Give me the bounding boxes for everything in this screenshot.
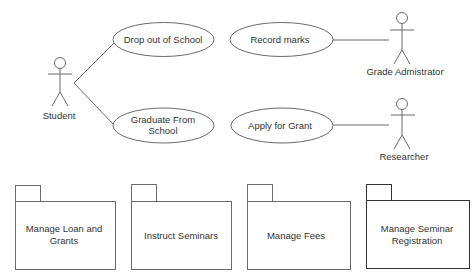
actor-label: Student [43, 110, 76, 121]
stick-figure-icon [391, 99, 415, 150]
actor-grade-administrator[interactable]: Grade Admistrator [366, 13, 443, 78]
package-manage-fees[interactable]: Manage Fees [248, 185, 351, 270]
use-case-label: Drop out of School [124, 34, 203, 45]
actor-label: Grade Admistrator [366, 66, 443, 77]
package-icon [132, 185, 232, 270]
package-manage-seminar-registration[interactable]: Manage Seminar Registration [367, 185, 470, 269]
package-label-line-1: Manage Loan and [26, 223, 103, 234]
actor-label: Researcher [379, 151, 428, 162]
use-case-label: Apply for Grant [248, 120, 312, 131]
package-icon [248, 185, 351, 270]
package-label-line-1: Manage Seminar [381, 223, 453, 234]
package-label: Manage Fees [267, 230, 325, 241]
actor-student[interactable]: Student [43, 58, 76, 122]
actor-researcher[interactable]: Researcher [379, 99, 428, 163]
associations [74, 40, 389, 125]
use-case-diagram: Student Grade Admistrator Researcher Dro… [0, 0, 476, 277]
association-student-graduate [74, 83, 114, 125]
package-instruct-seminars[interactable]: Instruct Seminars [132, 185, 232, 270]
use-case-drop-out[interactable]: Drop out of School [113, 23, 214, 57]
use-case-label-line-2: School [148, 125, 177, 136]
package-label-line-2: Grants [50, 235, 79, 246]
use-case-record-marks[interactable]: Record marks [230, 23, 333, 57]
package-manage-loan[interactable]: Manage Loan and Grants [16, 186, 116, 270]
stick-figure-icon [48, 58, 72, 107]
use-case-graduate[interactable]: Graduate From School [113, 108, 214, 143]
stick-figure-icon [390, 13, 414, 65]
package-label: Instruct Seminars [144, 230, 218, 241]
use-case-apply-grant[interactable]: Apply for Grant [231, 108, 333, 143]
package-label-line-2: Registration [392, 235, 443, 246]
use-case-label: Record marks [250, 34, 309, 45]
association-student-dropout [74, 43, 114, 83]
use-case-label-line-1: Graduate From [131, 114, 195, 125]
